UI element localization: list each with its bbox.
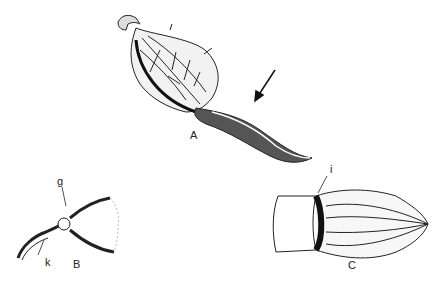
botanical-illustration <box>0 0 445 290</box>
label-i: i <box>330 164 332 175</box>
label-a: A <box>190 130 197 141</box>
arrow-icon <box>255 70 275 101</box>
label-g: g <box>57 176 63 187</box>
panel-a-pod <box>118 15 312 162</box>
label-b: B <box>73 259 80 270</box>
label-k: k <box>45 257 51 268</box>
panel-b-pod-base <box>18 198 119 260</box>
panel-c-capsule <box>273 190 428 258</box>
label-c: C <box>348 260 356 271</box>
